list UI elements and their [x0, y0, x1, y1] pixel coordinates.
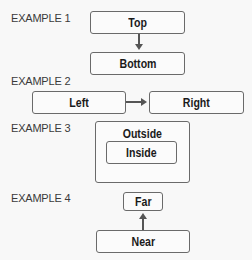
bottom-box: Bottom — [90, 52, 185, 75]
left-box: Left — [32, 91, 126, 114]
bottom-box-text: Bottom — [119, 57, 156, 71]
top-box: Top — [90, 11, 185, 34]
inside-box-text: Inside — [126, 146, 157, 160]
far-box-text: Far — [135, 195, 151, 209]
right-box-text: Right — [183, 96, 210, 110]
inside-box: Inside — [106, 141, 177, 164]
far-box: Far — [123, 192, 163, 211]
arrow-down-icon — [134, 34, 144, 52]
outside-box-text: Outside — [123, 127, 162, 141]
near-box: Near — [96, 230, 190, 253]
example-3-label: EXAMPLE 3 — [11, 122, 70, 134]
near-box-text: Near — [131, 235, 154, 249]
top-box-text: Top — [128, 16, 147, 30]
left-box-text: Left — [69, 96, 88, 110]
example-1-label: EXAMPLE 1 — [11, 12, 70, 24]
arrow-right-icon — [126, 97, 149, 107]
example-4-label: EXAMPLE 4 — [11, 192, 70, 204]
arrow-up-icon — [138, 211, 148, 230]
right-box: Right — [149, 91, 244, 114]
example-2-label: EXAMPLE 2 — [11, 75, 70, 87]
